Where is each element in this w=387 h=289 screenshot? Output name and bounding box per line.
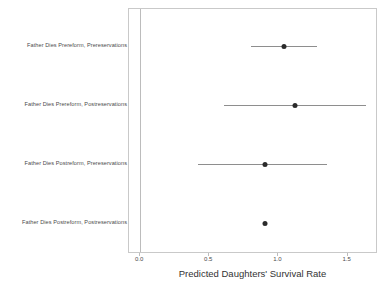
point-estimate-1	[293, 103, 298, 108]
forest-plot-figure: Father Dies Prereform, Prereservations F…	[0, 0, 387, 289]
x-tick-label-3: 1.5	[342, 256, 350, 262]
estimate-row-2	[129, 164, 376, 165]
y-axis-label-3: Father Dies Postreform, Postreservations	[22, 219, 127, 225]
plot-area	[128, 8, 377, 253]
y-axis-label-1: Father Dies Prereform, Postreservations	[25, 101, 127, 107]
point-estimate-3	[262, 221, 267, 226]
estimate-row-1	[129, 105, 376, 106]
y-axis-label-2: Father Dies Postreform, Prereservations	[25, 160, 127, 166]
y-axis-label-0: Father Dies Prereform, Prereservations	[27, 42, 127, 48]
point-estimate-2	[262, 162, 267, 167]
x-tick-label-1: 0.5	[204, 256, 212, 262]
x-axis-ticks: 0.0 0.5 1.0 1.5	[128, 253, 377, 265]
x-tick-label-2: 1.0	[273, 256, 281, 262]
y-axis-category-labels: Father Dies Prereform, Prereservations F…	[0, 0, 128, 253]
x-axis-title: Predicted Daughters' Survival Rate	[128, 268, 377, 279]
estimate-row-0	[129, 46, 376, 47]
point-estimate-0	[281, 44, 286, 49]
x-tick-label-0: 0.0	[135, 256, 143, 262]
estimate-row-3	[129, 223, 376, 224]
